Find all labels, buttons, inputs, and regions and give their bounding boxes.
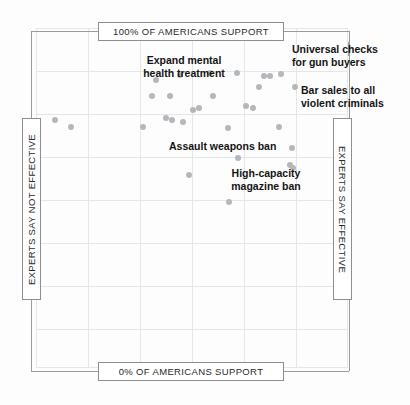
scatter-point <box>292 84 298 90</box>
axis-label-top-100-percent-support: 100% OF AMERICANS SUPPORT <box>98 22 284 41</box>
callout-line: Assault weapons ban <box>169 140 299 153</box>
connector-bottom-left <box>31 371 99 372</box>
gridline-horizontal <box>36 286 348 287</box>
scatter-point <box>278 71 284 77</box>
axis-label-text: EXPERTS SAY NOT EFFECTIVE <box>26 133 37 284</box>
scatter-point <box>167 93 173 99</box>
scatter-point <box>256 84 262 90</box>
axis-label-right-experts-say-effective: EXPERTS SAY EFFECTIVE <box>333 118 352 300</box>
callout-bar-sales: Bar sales to all violent criminals <box>301 84 410 109</box>
scatter-point <box>267 73 273 79</box>
gridline-horizontal <box>36 243 348 244</box>
chart-canvas: Expand mental health treatment Universal… <box>0 0 410 405</box>
connector-bottom-right <box>283 371 349 372</box>
connector-left-lower <box>31 299 32 371</box>
connector-top-right <box>283 31 349 32</box>
plot-area <box>36 28 348 368</box>
gridline-vertical <box>140 28 141 368</box>
callout-line: violent criminals <box>301 97 410 110</box>
callout-line: Expand mental <box>128 54 240 67</box>
scatter-point <box>169 117 175 123</box>
gridline-horizontal <box>36 114 348 115</box>
gridline-vertical <box>296 28 297 368</box>
callout-line: health treatment <box>128 67 240 80</box>
scatter-point <box>235 155 241 161</box>
scatter-point <box>186 172 192 178</box>
callout-high-capacity-magazine-ban: High-capacity magazine ban <box>214 167 318 192</box>
axis-label-left-experts-say-not-effective: EXPERTS SAY NOT EFFECTIVE <box>22 118 41 300</box>
callout-line: magazine ban <box>214 180 318 193</box>
callout-assault-weapons-ban: Assault weapons ban <box>169 140 299 153</box>
axis-label-bottom-0-percent-support: 0% OF AMERICANS SUPPORT <box>98 362 284 381</box>
scatter-point <box>149 93 155 99</box>
gridline-horizontal <box>36 329 348 330</box>
scatter-point <box>225 125 231 131</box>
gridline-vertical <box>192 28 193 368</box>
axis-label-text: 0% OF AMERICANS SUPPORT <box>119 366 264 377</box>
callout-expand-mental-health: Expand mental health treatment <box>128 54 240 79</box>
scatter-point <box>68 124 74 130</box>
callout-line: Universal checks <box>292 43 408 56</box>
callout-universal-checks: Universal checks for gun buyers <box>292 43 408 68</box>
scatter-point <box>276 124 282 130</box>
axis-label-text: EXPERTS SAY EFFECTIVE <box>337 145 348 272</box>
connector-right-lower <box>349 299 350 371</box>
callout-line: Bar sales to all <box>301 84 410 97</box>
callout-line: for gun buyers <box>292 56 408 69</box>
scatter-point <box>196 105 202 111</box>
scatter-point <box>140 124 146 130</box>
connector-top-left <box>31 31 99 32</box>
scatter-point <box>210 93 216 99</box>
scatter-point <box>226 199 232 205</box>
gridline-vertical <box>88 28 89 368</box>
connector-left-upper <box>31 31 32 119</box>
gridline-horizontal <box>36 200 348 201</box>
scatter-point <box>52 117 58 123</box>
gridline-vertical <box>244 28 245 368</box>
scatter-point <box>180 119 186 125</box>
scatter-point <box>250 105 256 111</box>
callout-line: High-capacity <box>214 167 318 180</box>
scatter-point <box>243 103 249 109</box>
gridline-horizontal <box>36 157 348 158</box>
axis-label-text: 100% OF AMERICANS SUPPORT <box>113 26 269 37</box>
